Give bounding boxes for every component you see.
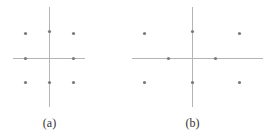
- panel-a: (a): [13, 7, 85, 130]
- constellation-point: [48, 81, 51, 84]
- constellation-point: [72, 57, 75, 60]
- constellation-point: [72, 81, 75, 84]
- constellation-point: [191, 81, 194, 84]
- constellation-point: [191, 30, 194, 33]
- constellation-point: [143, 81, 146, 84]
- constellation-point: [48, 30, 51, 33]
- constellation-point: [24, 57, 27, 60]
- constellation-point: [143, 32, 146, 35]
- panel-b: (b): [132, 7, 263, 130]
- constellation-point: [72, 32, 75, 35]
- constellation-point: [167, 57, 170, 60]
- constellation-point: [24, 81, 27, 84]
- constellation-point: [214, 57, 217, 60]
- panel-label: (b): [186, 116, 200, 130]
- panel-label: (a): [43, 116, 56, 130]
- constellation-point: [238, 32, 241, 35]
- constellation-point: [238, 81, 241, 84]
- constellation-diagram: (a) (b): [0, 0, 273, 138]
- constellation-point: [24, 32, 27, 35]
